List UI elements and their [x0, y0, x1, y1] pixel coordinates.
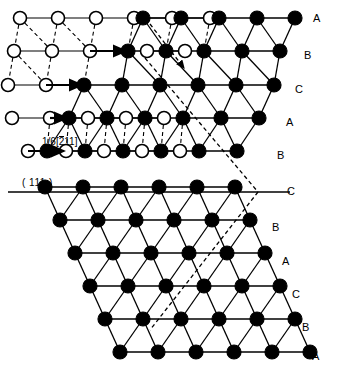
atom-filled-r3-4 [214, 111, 228, 125]
atom-filled-r10-2 [189, 345, 203, 359]
atom-filled-r9-5 [288, 312, 302, 326]
atom-filled-r0-2 [212, 11, 226, 25]
atom-filled-r1-1 [159, 44, 173, 58]
atom-filled-r9-3 [212, 312, 226, 326]
atom-open-shifted-r3-0 [82, 112, 95, 125]
atom-filled-r6-1 [91, 213, 105, 227]
atom-filled-r7-0 [68, 246, 82, 260]
atom-filled-r9-4 [250, 312, 264, 326]
atom-filled-r10-1 [151, 345, 165, 359]
slip-plane-label: ( 111 ) [22, 178, 53, 188]
bond-dashed [150, 192, 258, 330]
atom-filled-r6-2 [129, 213, 143, 227]
atom-filled-r6-0 [53, 213, 67, 227]
atom-filled-r0-0 [136, 11, 150, 25]
stacking-label-10: A [312, 351, 319, 362]
atom-filled-r2-3 [191, 78, 205, 92]
atom-filled-r4-4 [192, 144, 206, 158]
stacking-label-0: A [313, 13, 320, 24]
atom-filled-r6-3 [167, 213, 181, 227]
atom-filled-r4-3 [154, 144, 168, 158]
atom-filled-r2-4 [229, 78, 243, 92]
atom-filled-r1-3 [235, 44, 249, 58]
atom-filled-r8-5 [273, 279, 287, 293]
atom-filled-r6-5 [243, 213, 257, 227]
atom-filled-r8-0 [83, 279, 97, 293]
stacking-label-1: B [304, 50, 311, 61]
stacking-label-8: C [292, 289, 300, 300]
stacking-label-4: B [277, 150, 284, 161]
atom-filled-r7-1 [106, 246, 120, 260]
atom-filled-r8-2 [159, 279, 173, 293]
atom-filled-r9-2 [174, 312, 188, 326]
atom-open-shifted-r4-3 [174, 145, 187, 158]
atom-filled-r8-3 [197, 279, 211, 293]
atom-filled-r5-2 [114, 180, 128, 194]
atom-filled-r3-5 [252, 111, 266, 125]
atom-filled-r7-2 [144, 246, 158, 260]
atom-filled-r3-1 [100, 111, 114, 125]
figure-canvas: 1/6[211] ( 111 ) ABCABCBACBA [0, 0, 337, 365]
burgers-vector-label: 1/6[211] [42, 136, 77, 147]
burgers-fraction: 1/6 [42, 136, 56, 147]
atom-filled-r1-4 [273, 44, 287, 58]
atom-filled-r7-5 [258, 246, 272, 260]
bracket-close: ] [75, 136, 78, 147]
atom-filled-r2-1 [115, 78, 129, 92]
atom-filled-r10-0 [113, 345, 127, 359]
atom-filled-r10-3 [227, 345, 241, 359]
atom-filled-r0-1 [174, 11, 188, 25]
atom-filled-r4-2 [116, 144, 130, 158]
atom-filled-r0-3 [250, 11, 264, 25]
atom-open-r2-0 [2, 79, 15, 92]
atom-filled-r4-5 [230, 144, 244, 158]
atom-filled-r3-2 [138, 111, 152, 125]
stacking-label-3: A [286, 117, 293, 128]
atom-open-r1-1 [46, 45, 59, 58]
atom-filled-r5-4 [190, 180, 204, 194]
atom-open-shifted-r4-1 [98, 145, 111, 158]
atom-filled-r8-1 [121, 279, 135, 293]
stacking-label-6: B [272, 222, 279, 233]
atom-filled-r2-2 [153, 78, 167, 92]
atom-filled-r7-3 [182, 246, 196, 260]
atom-filled-r4-1 [78, 144, 92, 158]
atom-open-shifted-r3-1 [120, 112, 133, 125]
atom-filled-r6-4 [205, 213, 219, 227]
atom-open-r1-0 [8, 45, 21, 58]
atom-filled-r1-2 [197, 44, 211, 58]
stacking-label-2: C [295, 84, 303, 95]
atom-open-r0-2 [90, 12, 103, 25]
atom-filled-r2-5 [267, 78, 281, 92]
stacking-label-5: C [287, 186, 295, 197]
stacking-label-7: A [282, 256, 289, 267]
atom-filled-r8-4 [235, 279, 249, 293]
atom-filled-r7-4 [220, 246, 234, 260]
stacking-label-9: B [302, 322, 309, 333]
atom-filled-r9-0 [98, 312, 112, 326]
atom-filled-r9-1 [136, 312, 150, 326]
atom-filled-r5-1 [76, 180, 90, 194]
atom-open-shifted-r3-2 [158, 112, 171, 125]
atom-open-shifted-r1-0 [141, 45, 154, 58]
atom-open-r0-0 [14, 12, 27, 25]
atom-filled-r10-4 [265, 345, 279, 359]
atom-open-r3-0 [6, 112, 19, 125]
atom-filled-r5-5 [228, 180, 242, 194]
atom-open-shifted-r1-1 [179, 45, 192, 58]
atom-open-shifted-r4-2 [136, 145, 149, 158]
atom-filled-r0-4 [288, 11, 302, 25]
atom-filled-r5-3 [152, 180, 166, 194]
atom-filled-r3-3 [176, 111, 190, 125]
atom-open-r0-1 [52, 12, 65, 25]
